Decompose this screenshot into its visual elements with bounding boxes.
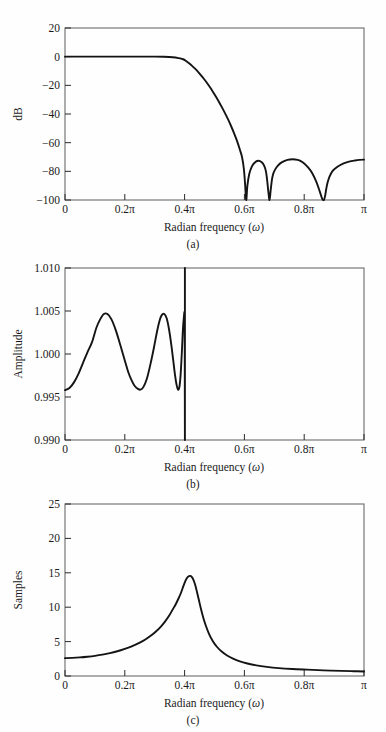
plot-a-frame: [65, 28, 364, 200]
figure-page: 20 0 −20 −40 −60 −80 −100 0 0.2π 0.4π 0.…: [0, 0, 386, 732]
plot-b-xtick-2: 0.4π: [175, 443, 195, 455]
plot-b-ytick-3: 0.995: [34, 391, 60, 403]
plot-b-curve: [65, 268, 185, 440]
plot-a-xtick-4: 0.8π: [294, 203, 314, 215]
plot-c-ytick-15: 15: [49, 567, 61, 579]
plot-c-svg: 25 20 15 10 5 0 0 0.2π 0.4π 0.6π 0.8π π …: [0, 492, 386, 732]
plot-b-xtick-1: 0.2π: [115, 443, 135, 455]
plot-b-ytick-1: 1.005: [34, 305, 60, 317]
plot-c-curve: [65, 576, 364, 672]
plot-c-frame: [65, 504, 364, 676]
plot-c-xtick-0: 0: [62, 679, 68, 691]
plot-c-ytick-20: 20: [49, 532, 61, 544]
caption-c: (c): [187, 714, 200, 726]
plot-c-xtick-1: 0.2π: [115, 679, 135, 691]
plot-a-xtick-5: π: [361, 203, 367, 215]
plot-panel-b: 1.010 1.005 1.000 0.995 0.990 0 0.2π 0.4…: [0, 246, 386, 492]
plot-c-ytick-25: 25: [49, 498, 61, 510]
plot-panel-a: 20 0 −20 −40 −60 −80 −100 0 0.2π 0.4π 0.…: [0, 0, 386, 246]
plot-c-xlabel: Radian frequency (ω): [164, 697, 264, 710]
plot-b-ytick-2: 1.000: [34, 348, 60, 360]
plot-b-xlabel: Radian frequency (ω): [164, 461, 264, 474]
plot-c-xtick-3: 0.6π: [234, 679, 254, 691]
plot-c-ylabel: Samples: [12, 570, 25, 609]
plot-a-ytick-3: −40: [42, 108, 60, 120]
plot-b-xtick-3: 0.6π: [234, 443, 254, 455]
plot-c-ytick-10: 10: [49, 601, 61, 613]
plot-b-frame: [65, 268, 364, 440]
plot-a-ytick-4: −60: [42, 137, 60, 149]
plot-a-xtick-0: 0: [62, 203, 68, 215]
plot-a-curve: [65, 57, 364, 201]
plot-a-ylabel: dB: [12, 107, 24, 121]
caption-b: (b): [186, 478, 199, 490]
plot-b-svg: 1.010 1.005 1.000 0.995 0.990 0 0.2π 0.4…: [0, 246, 386, 492]
plot-b-xtick-5: π: [361, 443, 367, 455]
plot-b-ytick-4: 0.990: [34, 434, 60, 446]
plot-b-y-ticks: [65, 268, 71, 440]
plot-b-x-ticks: [65, 434, 364, 440]
plot-c-xtick-2: 0.4π: [175, 679, 195, 691]
plot-a-y-ticks: [65, 28, 71, 200]
plot-c-ytick-0: 0: [54, 670, 60, 682]
plot-a-ytick-5: −80: [42, 165, 60, 177]
plot-b-ylabel: Amplitude: [12, 329, 25, 378]
plot-a-ytick-2: −20: [42, 79, 60, 91]
plot-c-xtick-5: π: [361, 679, 367, 691]
plot-a-xtick-2: 0.4π: [175, 203, 195, 215]
plot-b-ytick-0: 1.010: [34, 262, 60, 274]
plot-b-xtick-4: 0.8π: [294, 443, 314, 455]
plot-a-xlabel: Radian frequency (ω): [164, 221, 264, 234]
plot-a-ytick-6: −100: [36, 194, 60, 206]
plot-a-svg: 20 0 −20 −40 −60 −80 −100 0 0.2π 0.4π 0.…: [0, 0, 386, 246]
plot-a-ytick-0: 20: [49, 22, 61, 34]
plot-a-x-ticks: [65, 194, 364, 200]
plot-c-xtick-4: 0.8π: [294, 679, 314, 691]
plot-a-ytick-1: 0: [54, 51, 60, 63]
plot-b-xtick-0: 0: [62, 443, 68, 455]
plot-c-ytick-5: 5: [54, 636, 60, 648]
plot-a-xtick-3: 0.6π: [234, 203, 254, 215]
plot-a-xtick-1: 0.2π: [115, 203, 135, 215]
plot-c-y-ticks: [65, 504, 71, 676]
plot-panel-c: 25 20 15 10 5 0 0 0.2π 0.4π 0.6π 0.8π π …: [0, 492, 386, 732]
